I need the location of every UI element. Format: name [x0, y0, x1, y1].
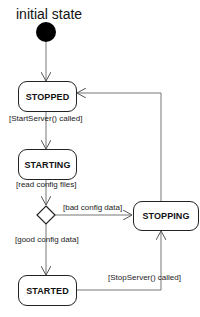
state-label: STARTING: [24, 160, 70, 170]
decision-node: [37, 206, 55, 224]
state-label: STARTED: [26, 286, 69, 296]
state-started: STARTED: [18, 275, 77, 306]
state-label: STOPPED: [26, 92, 70, 102]
state-label: STOPPING: [142, 211, 189, 221]
state-starting: STARTING: [18, 149, 77, 180]
state-stopped: STOPPED: [18, 81, 77, 112]
transition-label-read-config: [read config files]: [16, 180, 76, 189]
transition-label-stop: [StopServer() called]: [108, 273, 181, 282]
initial-state-title: initial state: [16, 6, 82, 22]
state-stopping: STOPPING: [133, 201, 199, 231]
transition-label-good-config: [good config data]: [15, 235, 79, 244]
transition-label-start: [StartServer() called]: [9, 114, 82, 123]
transition-label-bad-config: [bad config data]: [63, 203, 122, 212]
initial-state-node: [36, 22, 56, 42]
